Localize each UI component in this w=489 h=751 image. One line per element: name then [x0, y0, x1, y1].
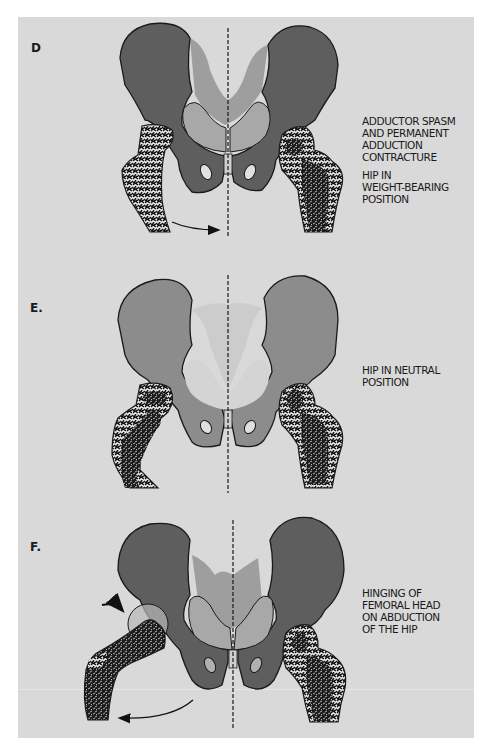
panel-label-d: D	[31, 41, 41, 55]
panel-e-drawing	[112, 275, 343, 493]
caption-line: WEIGHT-BEARING	[362, 181, 455, 193]
caption-line: POSITION	[362, 376, 440, 388]
caption-line: POSITION	[362, 193, 455, 205]
panel-e-caption: HIP IN NEUTRAL POSITION	[362, 364, 440, 388]
caption-line: HINGING OF	[362, 587, 440, 599]
caption-line: CONTRACTURE	[362, 151, 455, 163]
caption-line: AND PERMANENT	[362, 127, 455, 139]
panel-f-drawing	[84, 517, 345, 730]
caption-line: ADDUCTION	[362, 139, 455, 151]
panel-label-f: F.	[30, 540, 41, 554]
caption-line: ADDUCTOR SPASM	[362, 115, 455, 127]
caption-line: OF THE HIP	[362, 623, 440, 635]
panel-d-drawing	[120, 23, 343, 238]
caption-line: HIP IN	[362, 169, 455, 181]
caption-line: HIP IN NEUTRAL	[362, 364, 440, 376]
panel-label-e: E.	[30, 301, 43, 315]
caption-line: ON ABDUCTION	[362, 611, 440, 623]
caption-line: FEMORAL HEAD	[362, 599, 440, 611]
panel-d-caption: ADDUCTOR SPASM AND PERMANENT ADDUCTION C…	[362, 115, 455, 205]
panel-f-caption: HINGING OF FEMORAL HEAD ON ABDUCTION OF …	[362, 587, 440, 635]
